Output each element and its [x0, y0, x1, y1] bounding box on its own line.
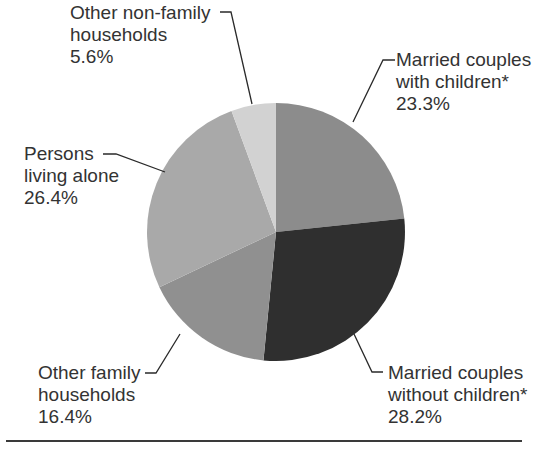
label-married-without: Married couples without children* 28.2%	[388, 362, 527, 428]
label-other-family-line1: Other family	[38, 362, 140, 384]
leader-line-other-nonfamily	[220, 12, 252, 104]
label-alone-line1: Persons	[24, 143, 119, 165]
label-married-with-pct: 23.3%	[396, 93, 531, 115]
label-married-without-line2: without children*	[388, 384, 527, 406]
label-other-family-pct: 16.4%	[38, 406, 140, 428]
pie-slice-married-couples-without-children	[263, 218, 405, 361]
label-alone-line2: living alone	[24, 165, 119, 187]
label-married-without-pct: 28.2%	[388, 406, 527, 428]
label-married-with: Married couples with children* 23.3%	[396, 49, 531, 115]
label-married-without-line1: Married couples	[388, 362, 527, 384]
label-married-with-line2: with children*	[396, 71, 531, 93]
leader-line-married-with	[353, 60, 395, 122]
pie-slices	[147, 103, 405, 361]
label-other-nonfamily-line2: households	[70, 24, 210, 46]
label-other-nonfamily: Other non-family households 5.6%	[70, 2, 210, 68]
label-alone: Persons living alone 26.4%	[24, 143, 119, 209]
pie-slice-married-couples-with-children	[276, 103, 404, 232]
label-alone-pct: 26.4%	[24, 187, 119, 209]
label-other-family: Other family households 16.4%	[38, 362, 140, 428]
label-other-family-line2: households	[38, 384, 140, 406]
label-other-nonfamily-line1: Other non-family	[70, 2, 210, 24]
bottom-rule	[6, 440, 522, 442]
leader-line-married-without	[354, 334, 383, 372]
leader-line-other-family	[145, 334, 180, 373]
label-other-nonfamily-pct: 5.6%	[70, 46, 210, 68]
label-married-with-line1: Married couples	[396, 49, 531, 71]
